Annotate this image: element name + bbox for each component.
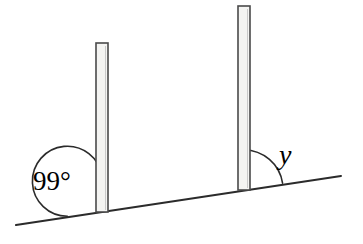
left-post-body xyxy=(96,43,108,212)
angle-label-y: y xyxy=(276,139,292,170)
right-post-body xyxy=(238,6,250,190)
right-post xyxy=(238,6,250,190)
angle-label-99: 99° xyxy=(33,166,71,196)
geometry-diagram: 99° y xyxy=(0,0,363,244)
diagram-canvas: 99° y xyxy=(0,0,363,244)
left-post xyxy=(96,43,108,212)
